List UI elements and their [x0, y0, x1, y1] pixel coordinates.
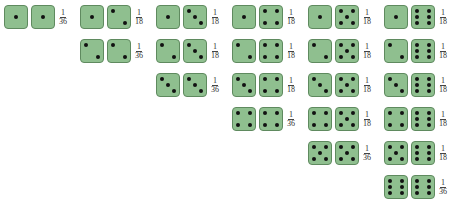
dice-pair: 118: [384, 73, 447, 97]
dice-pair: 118: [308, 39, 371, 63]
pip: [400, 179, 404, 183]
dice-pair: 136: [156, 73, 219, 97]
pip: [199, 21, 203, 25]
pip: [427, 117, 431, 121]
pip: [400, 123, 404, 127]
pip: [394, 83, 398, 87]
pip: [427, 89, 431, 93]
probability-fraction: 118: [363, 43, 371, 60]
fraction-denominator: 18: [439, 52, 447, 60]
pip: [187, 43, 191, 47]
pip: [248, 111, 252, 115]
pip: [351, 111, 355, 115]
dice-pair: 118: [308, 73, 371, 97]
die-face-four-icon: [259, 39, 283, 63]
pip: [427, 111, 431, 115]
pip: [339, 43, 343, 47]
pip: [123, 55, 127, 59]
die-face-four-icon: [232, 107, 256, 131]
fraction-denominator: 36: [363, 154, 371, 162]
probability-fraction: 118: [439, 43, 447, 60]
die-face-three-icon: [183, 5, 207, 29]
pip: [345, 49, 349, 53]
probability-fraction: 118: [287, 43, 295, 60]
die-face-six-icon: [384, 175, 408, 199]
probability-fraction: 118: [363, 9, 371, 26]
fraction-denominator: 18: [363, 120, 371, 128]
pip: [351, 55, 355, 59]
pip: [84, 43, 88, 47]
pip: [415, 123, 419, 127]
probability-fraction: 118: [439, 111, 447, 128]
probability-fraction: 136: [211, 77, 219, 94]
probability-fraction: 136: [135, 43, 143, 60]
die-face-one-icon: [384, 5, 408, 29]
pip: [242, 83, 246, 87]
pip: [427, 15, 431, 19]
pip: [275, 43, 279, 47]
pip: [415, 185, 419, 189]
pip: [427, 77, 431, 81]
dice-pair: 118: [232, 39, 295, 63]
pip: [427, 49, 431, 53]
pip: [351, 123, 355, 127]
pip: [187, 9, 191, 13]
dice-pair: 118: [232, 5, 295, 29]
pip: [415, 179, 419, 183]
pip: [236, 123, 240, 127]
die-face-one-icon: [80, 5, 104, 29]
fraction-denominator: 18: [363, 18, 371, 26]
fraction-denominator: 18: [135, 18, 143, 26]
die-face-five-icon: [335, 73, 359, 97]
dice-pair: 118: [384, 141, 447, 165]
die-face-five-icon: [335, 39, 359, 63]
pip: [248, 123, 252, 127]
die-face-five-icon: [384, 141, 408, 165]
die-face-six-icon: [411, 5, 435, 29]
pip: [312, 43, 316, 47]
pip: [324, 89, 328, 93]
fraction-denominator: 18: [439, 154, 447, 162]
probability-fraction: 136: [287, 111, 295, 128]
die-face-two-icon: [107, 5, 131, 29]
probability-fraction: 118: [287, 9, 295, 26]
pip: [400, 191, 404, 195]
pip: [263, 43, 267, 47]
pip: [111, 43, 115, 47]
pip: [263, 21, 267, 25]
probability-fraction: 118: [211, 9, 219, 26]
die-face-six-icon: [411, 107, 435, 131]
pip: [427, 83, 431, 87]
pip: [324, 55, 328, 59]
pip: [166, 83, 170, 87]
pip: [160, 43, 164, 47]
pip: [96, 55, 100, 59]
pip: [41, 15, 45, 19]
pip: [275, 123, 279, 127]
pip: [324, 145, 328, 149]
pip: [14, 15, 18, 19]
fraction-denominator: 36: [287, 120, 295, 128]
dice-pair: 136: [4, 5, 67, 29]
pip: [394, 151, 398, 155]
pip: [400, 55, 404, 59]
pip: [400, 157, 404, 161]
die-face-four-icon: [259, 73, 283, 97]
pip: [427, 55, 431, 59]
probability-fraction: 118: [439, 145, 447, 162]
pip: [199, 89, 203, 93]
pip: [345, 151, 349, 155]
pip: [193, 49, 197, 53]
fraction-denominator: 18: [287, 18, 295, 26]
pip: [415, 151, 419, 155]
fraction-denominator: 18: [211, 52, 219, 60]
pip: [388, 123, 392, 127]
pip: [111, 9, 115, 13]
pip: [339, 111, 343, 115]
fraction-denominator: 18: [363, 86, 371, 94]
pip: [263, 77, 267, 81]
pip: [415, 89, 419, 93]
pip: [400, 111, 404, 115]
pip: [351, 157, 355, 161]
pip: [427, 179, 431, 183]
